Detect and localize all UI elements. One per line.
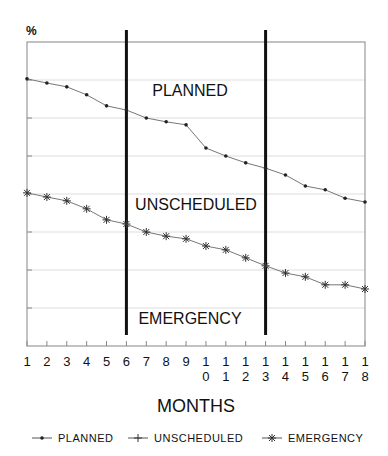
dot-marker-icon xyxy=(264,166,268,170)
x-tick-label: 8 xyxy=(163,354,170,369)
x-tick-label: 1 xyxy=(23,354,30,369)
x-tick-label: 9 xyxy=(182,354,189,369)
x-tick-label: 1 xyxy=(262,354,269,369)
dot-marker-icon xyxy=(184,123,188,127)
x-tick-label: 1 xyxy=(282,354,289,369)
x-tick-label: 1 xyxy=(222,369,229,384)
x-tick-label: 6 xyxy=(123,354,130,369)
x-tick-label: 7 xyxy=(342,369,349,384)
x-tick-label: 1 xyxy=(342,354,349,369)
x-tick-label: 1 xyxy=(202,354,209,369)
dot-marker-icon xyxy=(323,188,327,192)
legend-label: UNSCHEDULED xyxy=(154,432,243,444)
dot-marker-icon xyxy=(284,173,288,177)
region-label: EMERGENCY xyxy=(138,310,241,327)
x-tick-label: 3 xyxy=(262,369,269,384)
dot-marker-icon xyxy=(144,116,148,120)
x-tick-label: 0 xyxy=(202,369,209,384)
x-tick-label: 2 xyxy=(43,354,50,369)
x-tick-label: 1 xyxy=(302,354,309,369)
region-label: PLANNED xyxy=(152,82,228,99)
x-axis-label: MONTHS xyxy=(157,396,235,416)
x-tick-label: 6 xyxy=(322,369,329,384)
x-tick-label: 3 xyxy=(63,354,70,369)
legend-label: EMERGENCY xyxy=(288,432,364,444)
dot-marker-icon xyxy=(40,436,44,440)
x-tick-label: 1 xyxy=(322,354,329,369)
x-tick-label: 1 xyxy=(361,354,368,369)
x-tick-label: 5 xyxy=(103,354,110,369)
dot-marker-icon xyxy=(204,146,208,150)
dot-marker-icon xyxy=(125,108,129,112)
dot-marker-icon xyxy=(224,154,228,158)
x-tick-label: 1 xyxy=(222,354,229,369)
x-tick-label: 2 xyxy=(242,369,249,384)
dot-marker-icon xyxy=(85,93,89,97)
dot-marker-icon xyxy=(304,184,308,188)
dot-marker-icon xyxy=(25,77,29,81)
y-axis-label: % xyxy=(26,24,37,38)
dot-marker-icon xyxy=(343,196,347,200)
region-label: UNSCHEDULED xyxy=(135,196,257,213)
dot-marker-icon xyxy=(45,81,49,85)
legend-label: PLANNED xyxy=(58,432,113,444)
x-tick-label: 7 xyxy=(143,354,150,369)
dot-marker-icon xyxy=(244,161,248,165)
x-tick-label: 8 xyxy=(361,369,368,384)
line-chart: 123456789101112131415161718%MONTHSPLANNE… xyxy=(0,0,388,456)
dot-marker-icon xyxy=(164,120,168,124)
dot-marker-icon xyxy=(65,85,69,89)
x-tick-label: 5 xyxy=(302,369,309,384)
x-tick-label: 1 xyxy=(242,354,249,369)
dot-marker-icon xyxy=(363,200,367,204)
x-tick-label: 4 xyxy=(83,354,90,369)
dot-marker-icon xyxy=(105,104,109,108)
x-tick-label: 4 xyxy=(282,369,289,384)
